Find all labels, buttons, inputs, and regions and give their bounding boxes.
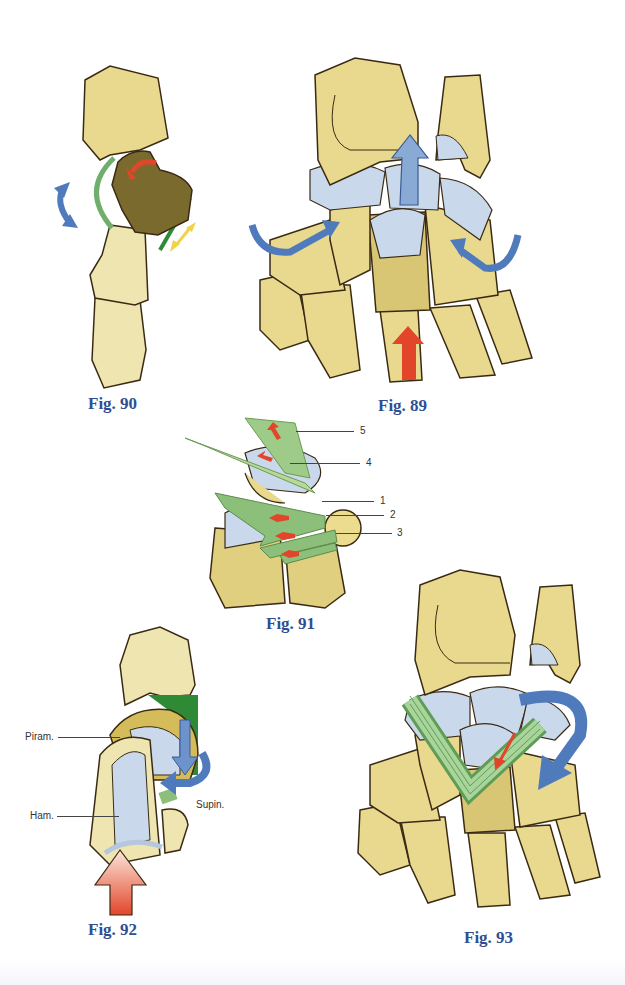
label-supin: Supin.: [196, 799, 224, 810]
page-footer-strip: [0, 960, 625, 985]
fig91-label-5: 5: [360, 425, 366, 436]
leader-line-4: [290, 463, 360, 464]
caption-fig-91: Fig. 91: [266, 614, 315, 634]
figure-92-illustration: [90, 625, 265, 915]
figure-89: [240, 40, 560, 385]
figure-93: [350, 565, 600, 910]
label-piram: Piram.: [25, 731, 54, 742]
fig91-label-1: 1: [380, 495, 386, 506]
fig91-label-4: 4: [366, 457, 372, 468]
caption-fig-93: Fig. 93: [464, 928, 513, 948]
leader-line-2: [326, 515, 384, 516]
caption-fig-90: Fig. 90: [88, 394, 137, 414]
leader-line-piram: [58, 737, 120, 738]
figure-90: [40, 60, 220, 390]
leader-line-1: [322, 501, 374, 502]
leader-line-3: [336, 533, 392, 534]
fig91-label-3: 3: [397, 527, 403, 538]
figure-92: [90, 625, 265, 915]
caption-fig-89: Fig. 89: [378, 396, 427, 416]
leader-line-5: [296, 431, 354, 432]
figure-93-illustration: [350, 565, 600, 910]
figure-90-illustration: [40, 60, 220, 390]
figure-89-illustration: [240, 40, 560, 385]
label-ham: Ham.: [30, 810, 54, 821]
fig91-label-2: 2: [390, 509, 396, 520]
leader-line-ham: [57, 816, 119, 817]
caption-fig-92: Fig. 92: [88, 920, 137, 940]
